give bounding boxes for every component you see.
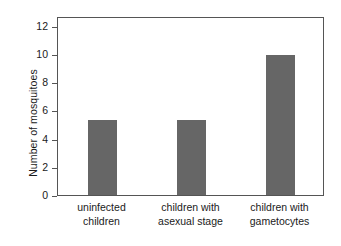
y-axis-tick-label: 4 — [42, 133, 48, 146]
y-axis-tick-label: 8 — [42, 76, 48, 89]
x-axis-category-label-line: children with — [235, 200, 324, 214]
y-axis-tick: 10 — [0, 55, 57, 56]
x-axis-category-label: children withasexual stage — [146, 200, 235, 242]
x-axis-category-label-line: asexual stage — [146, 214, 235, 228]
y-axis-tick-label: 10 — [36, 48, 48, 61]
plot-area — [57, 17, 324, 196]
x-axis-category-label: uninfectedchildren — [57, 200, 146, 242]
y-axis-tick: 6 — [0, 111, 57, 112]
x-axis-category-labels: uninfectedchildrenchildren withasexual s… — [57, 200, 324, 242]
y-axis-tick: 4 — [0, 140, 57, 141]
y-axis-tick-mark — [52, 196, 57, 197]
y-axis-tick-label: 0 — [42, 189, 48, 202]
y-axis-tick: 8 — [0, 83, 57, 84]
y-axis-tick-label: 2 — [42, 161, 48, 174]
x-axis-category-label-line: children with — [146, 200, 235, 214]
y-axis-title: Number of mosquitoes — [22, 0, 44, 246]
y-axis-tick: 0 — [0, 196, 57, 197]
bar-chart: Number of mosquitoes 024681012 uninfecte… — [0, 0, 341, 246]
y-axis-tick-label: 6 — [42, 104, 48, 117]
y-axis-tick-label: 12 — [36, 20, 48, 33]
bar — [177, 120, 206, 195]
bar — [266, 55, 295, 195]
x-axis-category-label-line: gametocytes — [235, 214, 324, 228]
y-axis-tick: 12 — [0, 27, 57, 28]
y-axis-tick: 2 — [0, 168, 57, 169]
x-axis-category-label-line: uninfected — [57, 200, 146, 214]
x-axis-category-label-line: children — [57, 214, 146, 228]
bar — [88, 120, 117, 195]
x-axis-category-label: children withgametocytes — [235, 200, 324, 242]
